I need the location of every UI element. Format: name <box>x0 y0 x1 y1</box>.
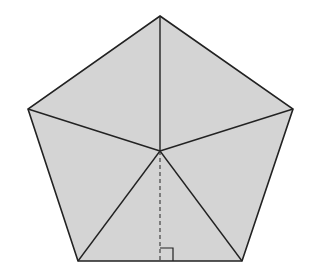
pentagon-diagram <box>0 0 311 271</box>
